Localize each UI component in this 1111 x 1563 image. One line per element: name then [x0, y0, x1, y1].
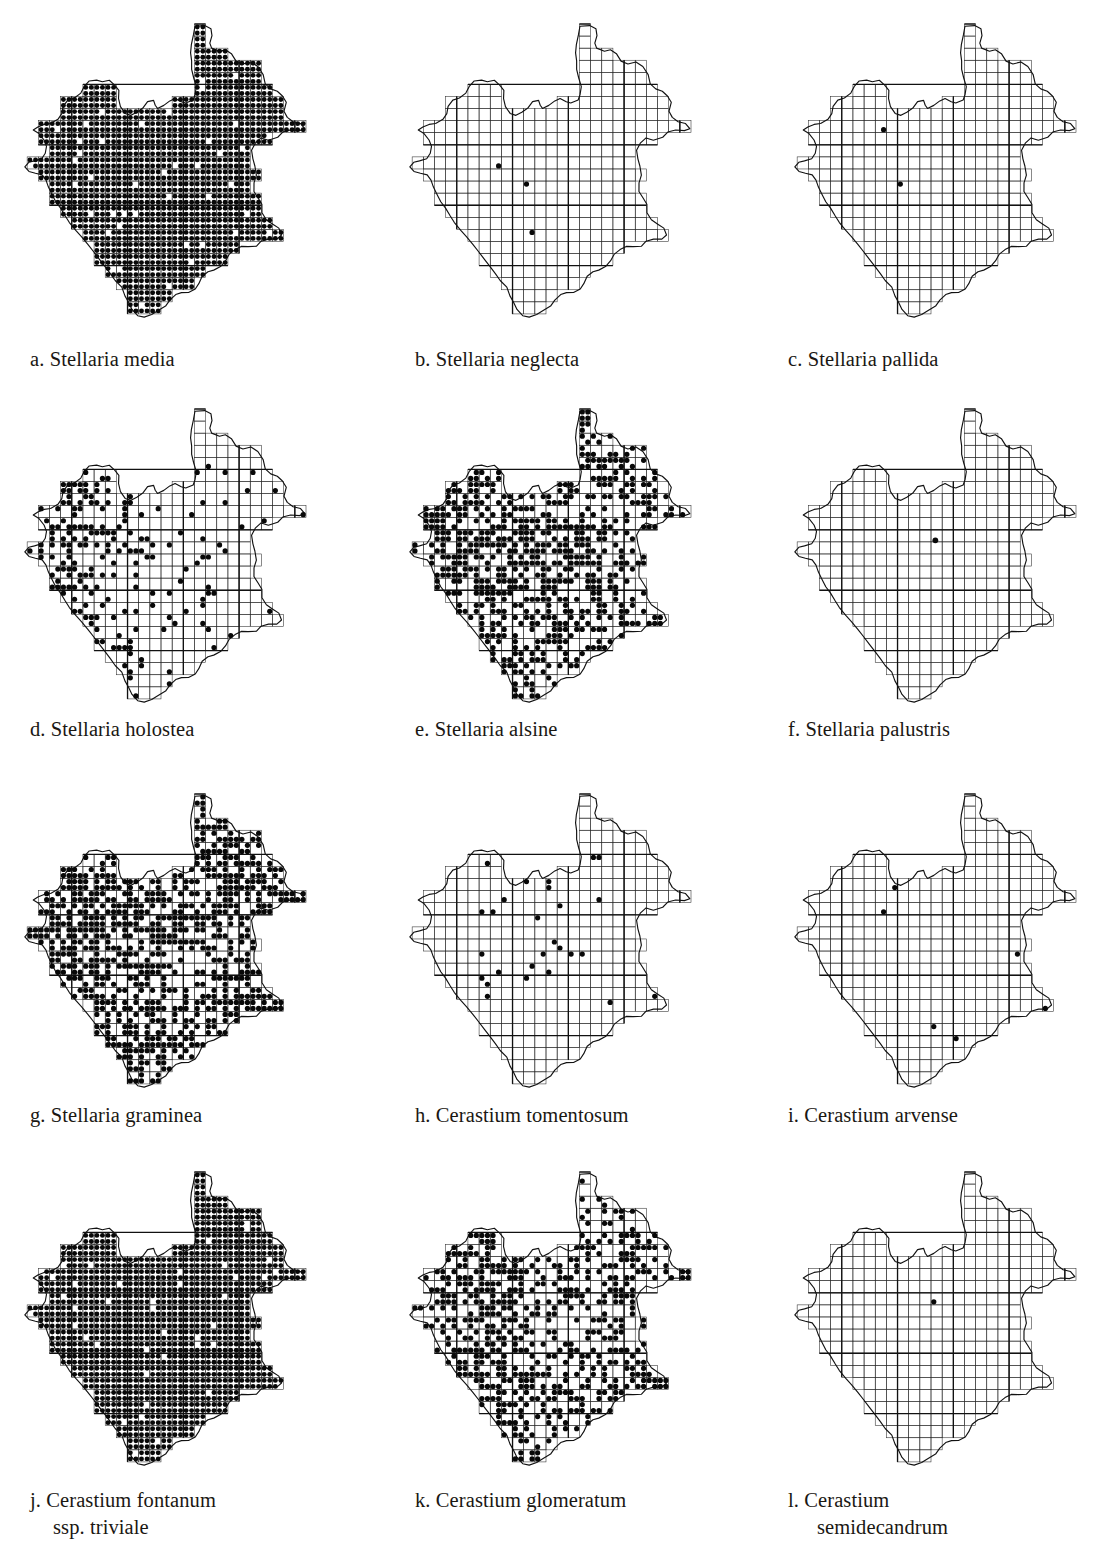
record-dots: [496, 163, 535, 235]
tetrad-gridlines: [797, 794, 1076, 1084]
map-cell-h: h. Cerastium tomentosum: [385, 784, 770, 1162]
map-caption-f: f. Stellaria palustris: [788, 716, 950, 743]
tetrad-gridlines: [797, 1172, 1076, 1462]
map-caption-line-1: l. Cerastium: [788, 1489, 889, 1511]
map-caption-b: b. Stellaria neglecta: [415, 346, 579, 373]
tetrad-map-svg: [0, 14, 322, 336]
map-caption-line-1: f. Stellaria palustris: [788, 718, 950, 740]
tetrad-map-svg: [0, 784, 322, 1106]
map-caption-line-1: e. Stellaria alsine: [415, 718, 558, 740]
tetrad-gridlines: [797, 409, 1076, 699]
tetrad-map-svg: [385, 784, 707, 1106]
map-caption-g: g. Stellaria graminea: [30, 1102, 202, 1129]
map-cell-b: b. Stellaria neglecta: [385, 14, 770, 399]
record-dots: [932, 537, 938, 543]
county-boundary: [795, 26, 1075, 318]
map-caption-line-1: b. Stellaria neglecta: [415, 348, 579, 370]
tetrad-gridlines: [412, 1172, 691, 1462]
map-caption-c: c. Stellaria pallida: [788, 346, 939, 373]
distribution-map-b: [385, 14, 770, 336]
record-dots: [412, 1178, 690, 1461]
record-dots: [27, 464, 305, 699]
tetrad-gridlines: [27, 24, 306, 314]
map-caption-line-2: ssp. triviale: [30, 1514, 216, 1541]
map-caption-line-1: d. Stellaria holostea: [30, 718, 194, 740]
distribution-map-c: [770, 14, 1111, 336]
county-boundary: [410, 796, 690, 1088]
tetrad-gridlines: [797, 24, 1076, 314]
tetrad-map-svg: [770, 399, 1092, 721]
map-cell-c: c. Stellaria pallida: [770, 14, 1111, 399]
tetrad-gridlines: [412, 409, 691, 699]
county-boundary: [795, 411, 1075, 703]
map-cell-f: f. Stellaria palustris: [770, 399, 1111, 784]
tetrad-gridlines: [412, 24, 691, 314]
map-caption-line-1: h. Cerastium tomentosum: [415, 1104, 629, 1126]
map-caption-k: k. Cerastium glomeratum: [415, 1487, 626, 1514]
map-caption-line-1: a. Stellaria media: [30, 348, 175, 370]
tetrad-map-svg: [385, 14, 707, 336]
tetrad-map-svg: [770, 784, 1092, 1106]
tetrad-gridlines: [27, 794, 306, 1084]
distribution-map-g: [0, 784, 385, 1106]
distribution-map-k: [385, 1162, 770, 1484]
map-caption-e: e. Stellaria alsine: [415, 716, 558, 743]
county-boundary: [795, 796, 1075, 1088]
tetrad-map-svg: [0, 399, 322, 721]
distribution-map-d: [0, 399, 385, 721]
map-caption-a: a. Stellaria media: [30, 346, 175, 373]
map-cell-j: j. Cerastium fontanumssp. triviale: [0, 1162, 385, 1562]
map-cell-l: l. Cerastiumsemidecandrum: [770, 1162, 1111, 1562]
distribution-map-h: [385, 784, 770, 1106]
tetrad-map-svg: [770, 14, 1092, 336]
distribution-map-a: [0, 14, 385, 336]
tetrad-gridlines: [27, 1172, 306, 1462]
map-caption-j: j. Cerastium fontanumssp. triviale: [30, 1487, 216, 1541]
map-cell-i: i. Cerastium arvense: [770, 784, 1111, 1162]
tetrad-map-svg: [385, 399, 707, 721]
map-caption-l: l. Cerastiumsemidecandrum: [788, 1487, 948, 1541]
map-caption-line-1: j. Cerastium fontanum: [30, 1489, 216, 1511]
map-caption-line-2: semidecandrum: [788, 1514, 948, 1541]
tetrad-map-svg: [385, 1162, 707, 1484]
map-cell-d: d. Stellaria holostea: [0, 399, 385, 784]
map-caption-i: i. Cerastium arvense: [788, 1102, 958, 1129]
record-dots: [931, 1299, 936, 1304]
tetrad-gridlines: [27, 409, 306, 699]
county-boundary: [795, 1174, 1075, 1466]
map-caption-line-1: i. Cerastium arvense: [788, 1104, 958, 1126]
distribution-map-grid: a. Stellaria mediab. Stellaria neglectac…: [0, 14, 1111, 1563]
map-cell-a: a. Stellaria media: [0, 14, 385, 399]
map-cell-g: g. Stellaria graminea: [0, 784, 385, 1162]
distribution-map-f: [770, 399, 1111, 721]
distribution-map-j: [0, 1162, 385, 1484]
distribution-map-l: [770, 1162, 1111, 1484]
atlas-page: a. Stellaria mediab. Stellaria neglectac…: [0, 0, 1111, 1563]
map-caption-line-1: g. Stellaria graminea: [30, 1104, 202, 1126]
map-cell-e: e. Stellaria alsine: [385, 399, 770, 784]
county-boundary: [410, 26, 690, 318]
distribution-map-i: [770, 784, 1111, 1106]
tetrad-map-svg: [0, 1162, 322, 1484]
map-caption-line-1: k. Cerastium glomeratum: [415, 1489, 626, 1511]
tetrad-gridlines: [412, 794, 691, 1084]
map-caption-line-1: c. Stellaria pallida: [788, 348, 939, 370]
map-cell-k: k. Cerastium glomeratum: [385, 1162, 770, 1562]
map-caption-d: d. Stellaria holostea: [30, 716, 194, 743]
distribution-map-e: [385, 399, 770, 721]
map-caption-h: h. Cerastium tomentosum: [415, 1102, 629, 1129]
tetrad-map-svg: [770, 1162, 1092, 1484]
